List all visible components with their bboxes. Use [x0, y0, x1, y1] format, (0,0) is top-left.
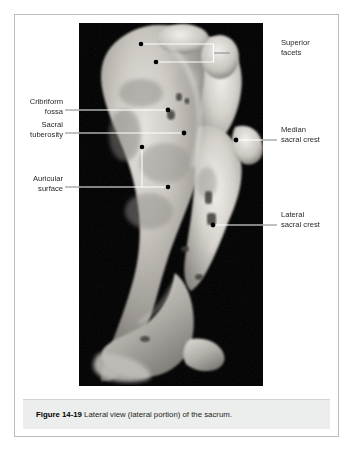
label-cribriform-fossa: Cribriform fossa — [15, 97, 63, 116]
label-median-sacral-crest: Median sacral crest — [281, 125, 339, 144]
figure-caption-body: Lateral view (lateral portion) of the sa… — [82, 410, 232, 419]
figure-caption: Figure 14-19 Lateral view (lateral porti… — [23, 410, 232, 419]
sacrum-photo-graphic — [79, 23, 263, 386]
sacrum-photograph — [79, 23, 263, 386]
figure-caption-box: Figure 14-19 Lateral view (lateral porti… — [23, 399, 330, 429]
label-sacral-tuberosity: Sacral tuberosity — [15, 120, 63, 139]
label-auricular-surface: Auricular surface — [15, 174, 63, 193]
label-superior-facets: Superior facets — [281, 38, 337, 57]
label-lateral-sacral-crest: Lateral sacral crest — [281, 210, 339, 229]
figure-frame: Superior facets Cribriform fossa Sacral … — [14, 14, 339, 437]
figure-number: Figure 14-19 — [36, 410, 82, 419]
